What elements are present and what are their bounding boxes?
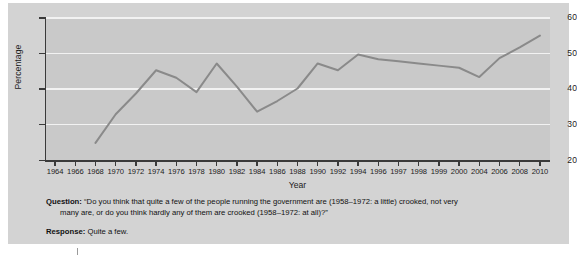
x-tick-label-1970: 1970 [107,167,124,176]
chart-figure: 60 50 40 30 20 Percentage 19641966196819… [0,0,577,257]
x-tick-label-1978: 1978 [188,167,205,176]
x-tick-label-1964: 1964 [47,167,64,176]
x-tick-label-1976: 1976 [168,167,185,176]
x-tick-label-2008: 2008 [511,167,528,176]
x-tick-1998 [418,161,419,166]
x-tick-1982 [236,161,237,166]
x-axis-title: Year [45,180,550,190]
x-tick-label-1984: 1984 [249,167,266,176]
x-tick-label-1986: 1986 [269,167,286,176]
x-tick-label-2004: 2004 [471,167,488,176]
x-tick-1970 [115,161,116,166]
y-tick-50 [39,53,46,55]
x-tick-label-1998: 1998 [410,167,427,176]
x-tick-label-1999: 1999 [431,167,448,176]
x-tick-1976 [176,161,177,166]
gridline-30 [45,124,550,126]
x-tick-1974 [155,161,156,166]
page-crop-mark [77,248,78,255]
x-tick-1996 [378,161,379,166]
x-tick-2000 [458,161,459,166]
x-tick-label-1972: 1972 [128,167,145,176]
x-tick-label-1996: 1996 [370,167,387,176]
response-text: Quite a few. [87,227,128,236]
x-tick-1986 [277,161,278,166]
y-tick-label-30: 30 [543,120,577,129]
x-tick-1980 [216,161,217,166]
x-tick-1992 [337,161,338,166]
x-tick-1994 [357,161,358,166]
y-tick-60 [39,17,46,19]
x-tick-label-1992: 1992 [330,167,347,176]
x-tick-label-1988: 1988 [289,167,306,176]
x-tick-label-2000: 2000 [451,167,468,176]
y-axis-title: Percentage [13,27,23,107]
x-tick-1997 [398,161,399,166]
x-tick-1964 [54,161,55,166]
x-tick-2010 [539,161,540,166]
x-tick-1984 [256,161,257,166]
y-tick-40 [39,88,46,90]
x-tick-label-1966: 1966 [67,167,84,176]
gridline-60 [45,17,550,19]
x-tick-label-1990: 1990 [309,167,326,176]
x-tick-1999 [438,161,439,166]
x-tick-1990 [317,161,318,166]
question-line-2: many are, or do you think hardly any of … [46,207,546,218]
question-label: Question: [46,197,82,206]
x-tick-label-1982: 1982 [229,167,246,176]
x-tick-1972 [135,161,136,166]
x-tick-2004 [479,161,480,166]
caption-block: Question: “Do you think that quite a few… [46,196,546,237]
x-tick-2008 [519,161,520,166]
question-line-1: “Do you think that quite a few of the pe… [84,197,458,206]
x-tick-1978 [196,161,197,166]
y-tick-30 [39,124,46,126]
response-label: Response: [46,227,85,236]
y-tick-label-60: 60 [543,13,577,22]
gridline-50 [45,53,550,55]
x-tick-label-1980: 1980 [208,167,225,176]
gridline-40 [45,88,550,90]
y-tick-label-40: 40 [543,84,577,93]
x-tick-label-1968: 1968 [87,167,104,176]
x-tick-label-1994: 1994 [350,167,367,176]
y-tick-label-50: 50 [543,49,577,58]
x-tick-label-1997: 1997 [390,167,407,176]
x-tick-2006 [499,161,500,166]
x-tick-1968 [95,161,96,166]
x-tick-label-2010: 2010 [532,167,549,176]
x-tick-label-1974: 1974 [148,167,165,176]
x-tick-label-2006: 2006 [491,167,508,176]
x-tick-1966 [75,161,76,166]
x-tick-1988 [297,161,298,166]
